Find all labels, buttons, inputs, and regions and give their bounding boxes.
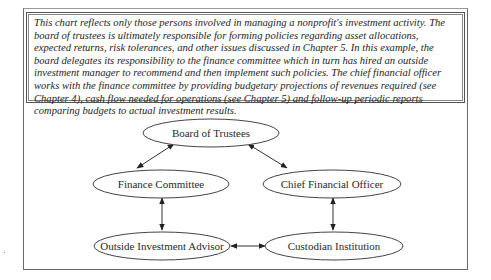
node-outside-investment-advisor: Outside Investment Advisor <box>94 232 230 260</box>
node-finance-committee: Finance Committee <box>93 170 229 198</box>
node-label: Finance Committee <box>118 178 205 190</box>
node-label: Chief Financial Officer <box>281 178 384 190</box>
node-label: Board of Trustees <box>172 127 250 139</box>
node-label: Custodian Institution <box>288 240 381 252</box>
node-label: Outside Investment Advisor <box>100 240 224 252</box>
org-diagram: Board of Trustees Finance Committee Chie… <box>0 0 491 280</box>
edge-board-cfo <box>248 144 287 168</box>
edge-board-finance <box>137 144 174 168</box>
node-chief-financial-officer: Chief Financial Officer <box>263 170 401 198</box>
node-board-of-trustees: Board of Trustees <box>143 119 279 147</box>
node-custodian-institution: Custodian Institution <box>265 232 403 260</box>
